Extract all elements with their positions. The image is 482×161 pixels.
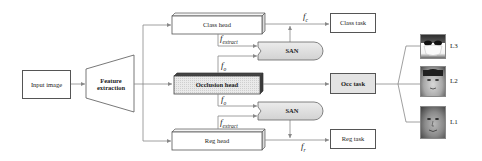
face-image-l2	[420, 66, 446, 97]
face-image-l1	[420, 106, 446, 139]
face-l1-icon	[421, 107, 445, 138]
f-extract-upper-label: fextract	[220, 33, 238, 45]
face-l2-icon	[421, 67, 445, 96]
level-label-l3: L3	[450, 42, 458, 50]
input-image-box: Input image	[22, 70, 71, 99]
input-image-label: Input image	[31, 81, 62, 88]
san-lower-label: SAN	[262, 102, 322, 120]
f-o-lower-label: fo	[221, 94, 226, 106]
feature-extraction-label: Feature extraction	[90, 70, 132, 98]
f-o-upper-label: fo	[221, 60, 226, 72]
face-image-l3	[420, 34, 446, 59]
occ-task-box: Occ task	[330, 73, 376, 94]
sunglasses-mask-icon	[421, 35, 445, 58]
f-c-label: fc	[303, 11, 308, 23]
f-r-label: fr	[301, 141, 306, 153]
level-label-l2: L2	[450, 77, 458, 85]
reg-head-label: Reg head	[172, 132, 262, 150]
san-upper-label: SAN	[262, 42, 322, 60]
class-head-label: Class head	[172, 16, 262, 34]
occlusion-head-label: Occlusion head	[174, 76, 260, 94]
reg-task-box: Reg task	[330, 129, 376, 149]
level-label-l1: L1	[450, 118, 458, 126]
class-task-box: Class task	[330, 13, 376, 33]
f-extract-lower-label: fextract	[220, 117, 238, 129]
